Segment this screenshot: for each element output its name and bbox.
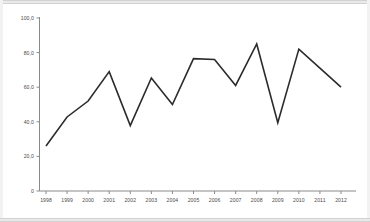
y-axis: 020,040,060,080,0100,0: [21, 15, 40, 194]
x-axis-tick-label: 2003: [145, 197, 157, 203]
line-chart: 020,040,060,080,0100,0 19981999200020012…: [4, 6, 366, 216]
window-left-rail: [0, 0, 3, 222]
x-axis-tick-label: 2002: [124, 197, 136, 203]
y-axis-tick-label: 20,0: [24, 153, 34, 159]
x-axis-tick-label: 2005: [188, 197, 200, 203]
y-axis-tick-label: 60,0: [24, 84, 34, 90]
x-axis-tick-label: 2004: [167, 197, 179, 203]
x-axis-tick-label: 2010: [293, 197, 305, 203]
x-axis-tick-label: 2008: [251, 197, 263, 203]
y-axis-tick-label: 100,0: [21, 15, 34, 21]
x-axis-tick-label: 2006: [209, 197, 221, 203]
data-series: [46, 44, 341, 146]
y-axis-tick-label: 80,0: [24, 50, 34, 56]
x-axis: 1998199920002001200220032004200520062007…: [40, 191, 357, 203]
x-axis-tick-label: 2011: [314, 197, 325, 203]
x-axis-tick-label: 2009: [272, 197, 284, 203]
x-axis-tick-label: 1999: [61, 197, 73, 203]
x-axis-tick-label: 2012: [335, 197, 347, 203]
window-bottom-band: [0, 218, 370, 222]
x-axis-tick-label: 2000: [82, 197, 94, 203]
data-line: [46, 44, 341, 146]
chart-screenshot: 020,040,060,080,0100,0 19981999200020012…: [0, 0, 370, 222]
y-axis-tick-label: 0: [31, 188, 34, 194]
x-axis-tick-label: 2001: [103, 197, 115, 203]
x-axis-tick-label: 1998: [40, 197, 52, 203]
x-axis-tick-label: 2007: [230, 197, 242, 203]
window-top-band: [0, 0, 370, 4]
chart-canvas: 020,040,060,080,0100,0 19981999200020012…: [4, 6, 366, 216]
y-axis-tick-label: 40,0: [24, 119, 34, 125]
